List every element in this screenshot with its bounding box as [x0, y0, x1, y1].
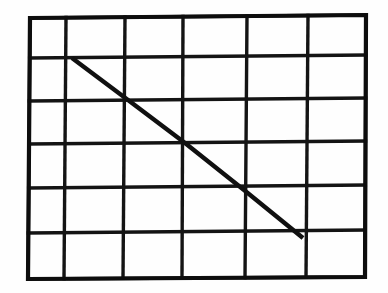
- paper-background: [0, 0, 388, 293]
- grid-diagram: [0, 0, 388, 293]
- figure-root: Rectangular grid with a diagonal line: [0, 0, 388, 293]
